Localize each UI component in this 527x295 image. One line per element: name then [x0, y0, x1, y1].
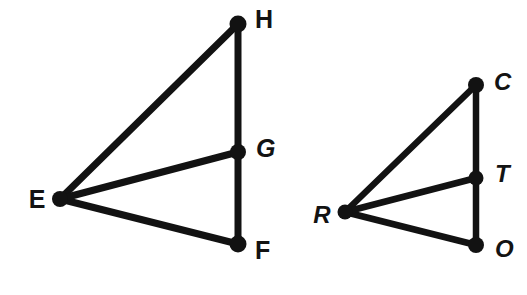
vertex-label-o: O: [495, 235, 514, 262]
vertex-dot-t: [469, 171, 484, 186]
vertex-dot-c: [468, 77, 484, 93]
vertex-dot-e: [52, 191, 68, 207]
vertex-dot-h: [230, 16, 247, 33]
vertex-dot-g: [230, 144, 246, 160]
vertex-label-e: E: [29, 185, 46, 213]
vertex-label-t: T: [495, 160, 512, 187]
vertex-label-r: R: [313, 201, 331, 228]
vertex-label-f: F: [255, 236, 270, 264]
vertex-label-g: G: [256, 134, 275, 162]
vertex-dot-o: [468, 237, 484, 253]
vertex-label-c: C: [494, 68, 512, 95]
geometry-diagram: EHGFRCTO: [0, 0, 527, 295]
vertex-dot-f: [230, 236, 247, 253]
vertex-dot-r: [338, 205, 353, 220]
vertex-label-h: H: [255, 5, 273, 33]
